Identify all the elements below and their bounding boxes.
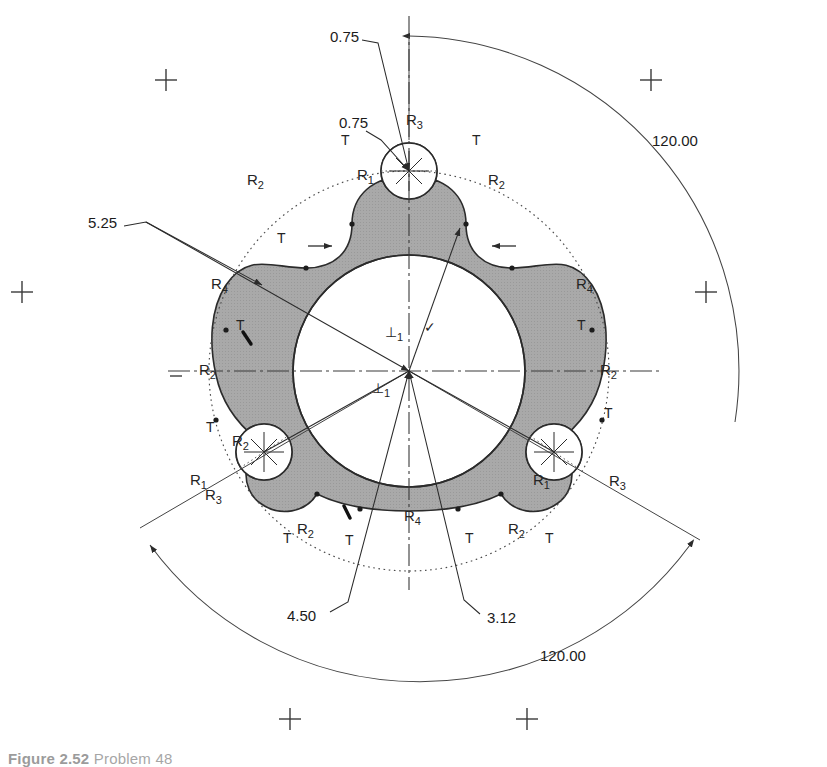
tick-bottom-left: [344, 506, 350, 518]
figure-caption-text: Problem 48: [94, 750, 173, 767]
cross-top-right: [640, 69, 662, 91]
tp-3: [303, 265, 308, 270]
figure-label: Figure 2.52: [8, 750, 89, 767]
r-left-flank: R4: [211, 275, 228, 295]
t-left-lower: T: [206, 419, 215, 435]
perpendicularity-upper: ⊥1: [385, 324, 403, 343]
dim-bolt-hole-dia-top: 0.75: [330, 28, 359, 45]
t-upper-left: T: [277, 230, 286, 246]
dim-outer-dia: 5.25: [88, 214, 117, 231]
r-top-lobe-left: R1: [357, 166, 374, 186]
cross-bottom-left: [279, 708, 301, 730]
t-left-upper: T: [236, 317, 245, 333]
t-right-upper: T: [577, 317, 586, 333]
t-bottom-leftmid: T: [345, 532, 354, 548]
dim-angle-upper-right: 120.00: [652, 132, 698, 149]
tp-4: [509, 265, 514, 270]
tp-6: [589, 327, 594, 332]
r-bottom-left-arc: R2: [297, 520, 314, 540]
cross-mid-right: [695, 281, 717, 303]
tp-10: [498, 491, 503, 496]
t-top-right: T: [472, 132, 481, 148]
r-bl-lobe-outer: R3: [205, 486, 222, 506]
t-bottom-right: T: [545, 530, 554, 546]
tp-1: [349, 221, 354, 226]
tp-5: [223, 327, 228, 332]
tp-9: [314, 491, 319, 496]
t-right-lower: T: [604, 405, 613, 421]
arc-120-lower-right: [150, 545, 690, 682]
dim-bore-dia: 3.12: [487, 609, 516, 626]
r-bottom-right-arc: R2: [508, 520, 525, 540]
dim-angle-lower-right: 120.00: [540, 647, 586, 664]
tp-11: [357, 506, 362, 511]
cross-top-left: [155, 69, 177, 91]
dim-fillet-top-left: 0.75: [339, 114, 368, 131]
cross-mid-left: [11, 281, 33, 303]
dim-bolt-circle: 4.50: [287, 607, 316, 624]
gdt-symbol-layer: ⊥1⊥1✓: [372, 319, 436, 399]
figure-caption: Figure 2.52 Problem 48: [8, 750, 173, 767]
r-right-mid-arc: R2: [600, 361, 617, 381]
r-top-left-arc: R2: [247, 171, 264, 191]
ray-upper-left-long: [146, 222, 262, 285]
tp-2: [463, 221, 468, 226]
cross-bottom-right: [516, 708, 538, 730]
parallel-check-mark: ✓: [424, 319, 436, 335]
tp-12: [455, 506, 460, 511]
t-bottom-left: T: [283, 530, 292, 546]
t-top-left: T: [341, 132, 350, 148]
t-bottom-rightmid: T: [465, 530, 474, 546]
